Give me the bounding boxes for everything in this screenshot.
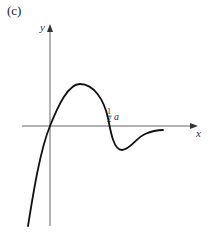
svg-text:a: a (114, 111, 119, 122)
graph: x y 1 2 a (0, 0, 216, 232)
function-curve (28, 84, 163, 226)
x-axis-label: x (195, 127, 201, 139)
y-axis-arrow-icon (47, 24, 53, 32)
y-axis-label: y (39, 21, 45, 33)
